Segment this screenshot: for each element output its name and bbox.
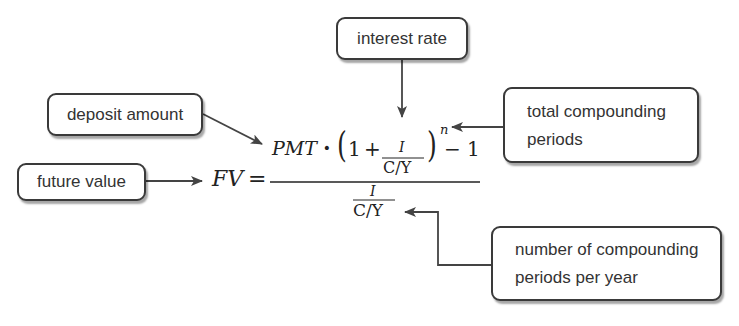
total-periods-line-1: total compounding bbox=[527, 101, 697, 123]
one: 1 bbox=[348, 137, 361, 161]
pmt-symbol: PMT bbox=[272, 137, 317, 159]
fv-symbol: FV bbox=[212, 166, 243, 191]
equals-sign: = bbox=[248, 166, 266, 191]
periods-per-year-line-2: periods per year bbox=[515, 267, 720, 289]
open-paren: ( bbox=[337, 124, 347, 165]
inner-numerator-i: I bbox=[399, 139, 405, 155]
deposit-amount-text: deposit amount bbox=[67, 104, 183, 126]
interest-rate-label: interest rate bbox=[336, 17, 468, 60]
close-paren: ) bbox=[427, 124, 437, 165]
plus-sign: + bbox=[364, 137, 381, 161]
total-periods-line-2: periods bbox=[527, 129, 697, 151]
periods-per-year-arrow bbox=[405, 212, 491, 265]
inner-denominator-cy: C/Y bbox=[383, 158, 411, 177]
deposit-amount-arrow bbox=[203, 114, 262, 144]
denominator-cy: C/Y bbox=[353, 200, 383, 220]
interest-rate-text: interest rate bbox=[357, 28, 447, 50]
denominator-i: I bbox=[370, 183, 376, 199]
periods-per-year-label: number of compounding periods per year bbox=[491, 226, 722, 301]
future-value-label: future value bbox=[17, 163, 146, 201]
total-compounding-periods-label: total compounding periods bbox=[503, 87, 699, 163]
periods-per-year-line-1: number of compounding bbox=[515, 239, 720, 261]
multiply-dot: · bbox=[323, 135, 331, 161]
deposit-amount-label: deposit amount bbox=[47, 93, 203, 136]
minus-one: − 1 bbox=[444, 137, 480, 161]
future-value-text: future value bbox=[37, 171, 126, 193]
exponent-n: n bbox=[440, 122, 448, 137]
